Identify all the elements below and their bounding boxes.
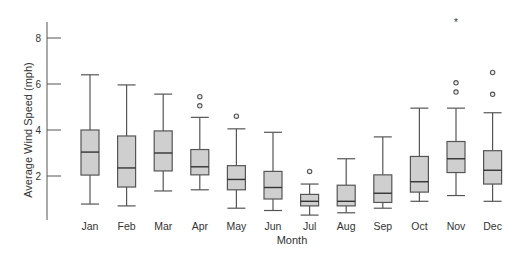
x-tick-label: Nov — [447, 220, 466, 232]
outlier-point — [198, 94, 202, 98]
box-feb: Feb — [118, 85, 136, 232]
x-tick-label: Aug — [337, 220, 356, 232]
box-jan: Jan — [81, 75, 99, 232]
x-tick-label: Jan — [82, 220, 99, 232]
box-nov: *Nov — [447, 17, 466, 232]
outlier-point — [234, 114, 238, 118]
x-tick-label: May — [226, 220, 247, 232]
box-oct: Oct — [410, 108, 428, 232]
outlier-point — [454, 81, 458, 85]
y-tick-label: 2 — [35, 171, 41, 182]
boxplot-chart: 2468 JanFebMarAprMayJunJulAugSepOct*NovD… — [0, 0, 531, 256]
box-dec: Dec — [483, 70, 502, 232]
box-aug: Aug — [337, 159, 356, 232]
axes: 2468 — [35, 22, 61, 220]
box-mar: Mar — [154, 94, 173, 232]
outlier-point — [490, 92, 494, 96]
iqr-box — [191, 150, 209, 175]
iqr-box — [301, 194, 319, 206]
box-sep: Sep — [373, 137, 392, 232]
boxes: JanFebMarAprMayJunJulAugSepOct*NovDec — [81, 17, 502, 232]
iqr-box — [447, 142, 465, 173]
x-tick-label: Jun — [265, 220, 282, 232]
iqr-box — [484, 151, 502, 184]
x-tick-label: Sep — [373, 220, 392, 232]
extreme-point: * — [454, 17, 458, 28]
iqr-box — [154, 131, 172, 171]
x-tick-label: Feb — [118, 220, 136, 232]
outlier-point — [307, 169, 311, 173]
outlier-point — [198, 104, 202, 108]
y-axis-label: Average Wind Speed (mph) — [22, 62, 34, 198]
box-jul: Jul — [301, 169, 319, 232]
y-tick-label: 4 — [35, 125, 41, 136]
iqr-box — [410, 156, 428, 192]
box-may: May — [226, 114, 247, 232]
outlier-point — [454, 90, 458, 94]
box-apr: Apr — [191, 94, 209, 232]
y-tick-label: 6 — [35, 79, 41, 90]
box-jun: Jun — [264, 132, 282, 232]
x-tick-label: Oct — [411, 220, 427, 232]
iqr-box — [118, 136, 136, 187]
x-tick-label: Jul — [303, 220, 316, 232]
x-tick-label: Mar — [154, 220, 173, 232]
iqr-box — [374, 175, 392, 203]
x-tick-label: Dec — [483, 220, 502, 232]
outlier-point — [490, 70, 494, 74]
iqr-box — [337, 185, 355, 206]
x-axis-label: Month — [277, 234, 308, 246]
iqr-box — [227, 166, 245, 190]
x-tick-label: Apr — [192, 220, 209, 232]
iqr-box — [264, 171, 282, 199]
y-tick-label: 8 — [35, 33, 41, 44]
